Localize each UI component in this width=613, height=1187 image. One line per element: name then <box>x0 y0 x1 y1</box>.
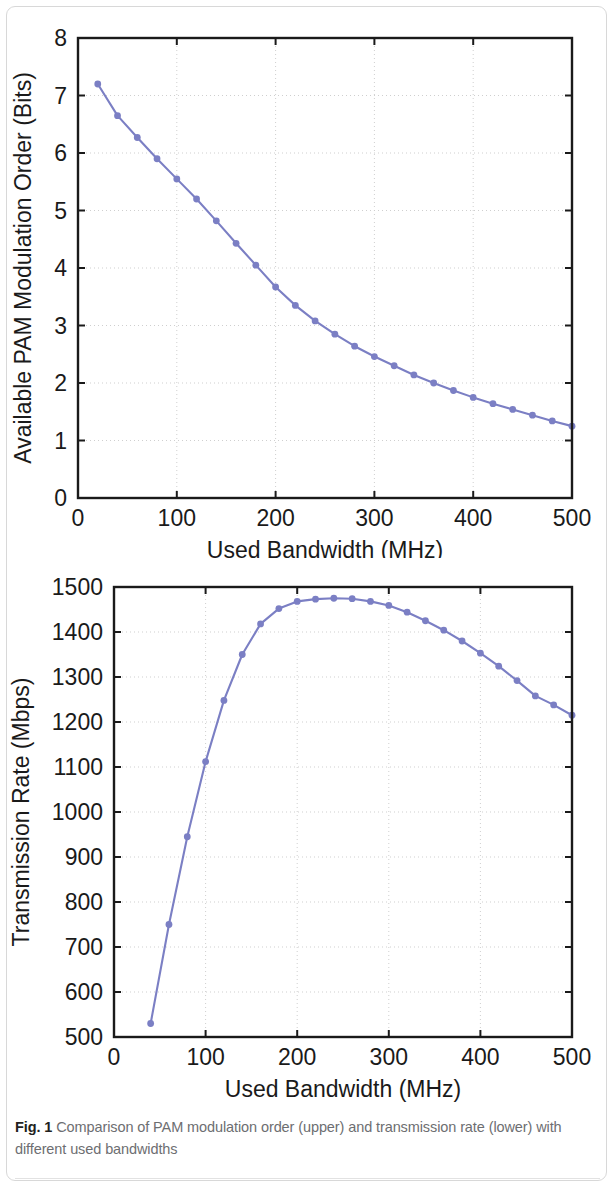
data-point-marker <box>147 1020 154 1027</box>
x-tick-label: 300 <box>355 505 393 531</box>
x-axis-title: Used Bandwidth (MHz) <box>207 537 443 558</box>
y-axis-title: Available PAM Modulation Order (Bits) <box>10 72 36 464</box>
y-tick-label: 1000 <box>52 799 103 825</box>
data-point-marker <box>154 155 161 162</box>
y-tick-label: 1 <box>54 428 67 454</box>
upper-chart-svg: 0100200300400500012345678Used Bandwidth … <box>7 13 608 558</box>
data-point-marker <box>440 627 447 634</box>
data-point-marker <box>294 598 301 605</box>
data-point-marker <box>252 262 259 269</box>
x-tick-label: 0 <box>72 505 85 531</box>
data-point-marker <box>184 833 191 840</box>
data-point-marker <box>532 693 539 700</box>
data-point-marker <box>422 617 429 624</box>
y-tick-label: 1300 <box>52 664 103 690</box>
data-point-marker <box>221 697 228 704</box>
x-tick-label: 200 <box>256 505 294 531</box>
data-point-marker <box>272 284 279 291</box>
x-tick-label: 100 <box>158 505 196 531</box>
data-point-marker <box>202 758 209 765</box>
x-tick-label: 200 <box>278 1044 316 1070</box>
y-tick-label: 900 <box>65 844 103 870</box>
data-point-marker <box>114 112 121 119</box>
data-point-marker <box>351 343 358 350</box>
data-point-marker <box>514 677 521 684</box>
y-tick-label: 600 <box>65 979 103 1005</box>
plot-frame <box>78 38 572 498</box>
data-point-marker <box>312 596 319 603</box>
x-tick-label: 500 <box>553 1044 591 1070</box>
data-point-marker <box>477 650 484 657</box>
x-tick-label: 500 <box>553 505 591 531</box>
figure-caption: Fig. 1 Comparison of PAM modulation orde… <box>15 1116 595 1160</box>
series-line <box>151 598 572 1023</box>
y-tick-label: 5 <box>54 198 67 224</box>
y-tick-label: 2 <box>54 370 67 396</box>
data-point-marker <box>349 595 356 602</box>
y-tick-label: 1400 <box>52 619 103 645</box>
lower-chart: 0100200300400500500600700800900100011001… <box>7 560 608 1105</box>
data-point-marker <box>193 196 200 203</box>
data-point-marker <box>404 609 411 616</box>
data-point-marker <box>275 605 282 612</box>
data-point-marker <box>411 372 418 379</box>
series-line <box>98 84 572 426</box>
data-point-marker <box>371 353 378 360</box>
data-point-marker <box>330 595 337 602</box>
data-point-marker <box>385 602 392 609</box>
y-tick-label: 3 <box>54 313 67 339</box>
x-tick-label: 100 <box>186 1044 224 1070</box>
data-point-marker <box>459 638 466 645</box>
lower-chart-svg: 0100200300400500500600700800900100011001… <box>7 560 608 1105</box>
y-tick-label: 0 <box>54 485 67 511</box>
x-tick-label: 0 <box>108 1044 121 1070</box>
data-point-marker <box>490 400 497 407</box>
y-tick-label: 500 <box>65 1024 103 1050</box>
data-point-marker <box>166 921 173 928</box>
caption-divider <box>15 1178 600 1179</box>
y-tick-label: 1100 <box>54 754 103 780</box>
data-point-marker <box>470 394 477 401</box>
data-point-marker <box>495 663 502 670</box>
figure-card: 0100200300400500012345678Used Bandwidth … <box>6 6 607 1181</box>
y-tick-label: 700 <box>65 934 103 960</box>
x-tick-label: 300 <box>370 1044 408 1070</box>
data-point-marker <box>550 702 557 709</box>
data-point-marker <box>391 362 398 369</box>
data-point-marker <box>450 387 457 394</box>
x-tick-label: 400 <box>454 505 492 531</box>
data-point-marker <box>233 240 240 247</box>
y-tick-label: 6 <box>54 140 67 166</box>
data-point-marker <box>239 651 246 658</box>
data-point-marker <box>509 406 516 413</box>
y-tick-label: 7 <box>54 83 67 109</box>
data-point-marker <box>292 302 299 309</box>
data-point-marker <box>549 418 556 425</box>
data-point-marker <box>213 217 220 224</box>
data-point-marker <box>94 81 101 88</box>
data-point-marker <box>257 621 264 628</box>
figure-caption-text: Comparison of PAM modulation order (uppe… <box>15 1119 562 1157</box>
x-axis-title: Used Bandwidth (MHz) <box>225 1076 461 1102</box>
data-point-marker <box>312 318 319 325</box>
figure-caption-label: Fig. 1 <box>15 1119 52 1135</box>
x-tick-label: 400 <box>461 1044 499 1070</box>
y-tick-label: 8 <box>54 25 67 51</box>
y-tick-label: 4 <box>54 255 67 281</box>
data-point-marker <box>134 134 141 141</box>
y-axis-title: Transmission Rate (Mbps) <box>8 678 34 947</box>
y-tick-label: 1200 <box>52 709 103 735</box>
y-tick-label: 800 <box>65 889 103 915</box>
data-point-marker <box>367 598 374 605</box>
upper-chart: 0100200300400500012345678Used Bandwidth … <box>7 13 608 558</box>
y-tick-label: 1500 <box>52 574 103 600</box>
data-point-marker <box>331 331 338 338</box>
data-point-marker <box>529 412 536 419</box>
data-point-marker <box>430 380 437 387</box>
data-point-marker <box>173 175 180 182</box>
